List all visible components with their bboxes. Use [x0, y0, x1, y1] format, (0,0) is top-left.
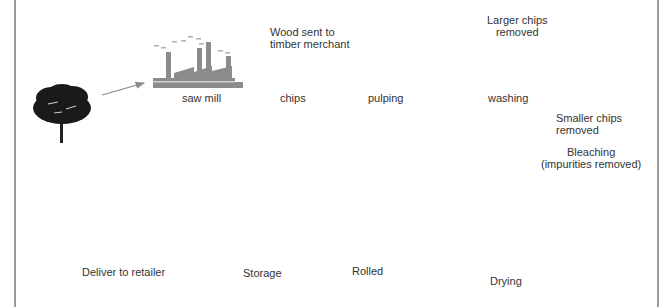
tree-icon: [33, 84, 91, 143]
annotation-smaller-chips: Smaller chips removed: [556, 112, 622, 136]
label-drying: Drying: [490, 275, 522, 287]
label-bleaching: Bleaching (impurities removed): [541, 146, 641, 170]
annotation-larger-chips-line1: Larger chips: [487, 14, 548, 26]
label-bleaching-title: Bleaching: [541, 146, 641, 158]
saw-mill-icon: [153, 36, 243, 88]
label-chips: chips: [280, 92, 306, 104]
annotation-larger-chips-line2: removed: [487, 26, 548, 38]
annotation-smaller-chips-line1: Smaller chips: [556, 112, 622, 124]
annotation-timber-line1: Wood sent to: [270, 26, 349, 38]
label-storage: Storage: [243, 267, 282, 279]
annotation-timber: Wood sent to timber merchant: [270, 26, 349, 50]
label-saw-mill: saw mill: [182, 92, 221, 104]
arrow-tree-to-sawmill: [102, 83, 144, 95]
label-bleaching-sub: (impurities removed): [541, 158, 641, 170]
label-rolled: Rolled: [352, 265, 383, 277]
annotation-larger-chips: Larger chips removed: [487, 14, 548, 38]
label-washing: washing: [488, 92, 528, 104]
label-deliver: Deliver to retailer: [82, 266, 165, 278]
annotation-timber-line2: timber merchant: [270, 38, 349, 50]
annotation-smaller-chips-line2: removed: [556, 124, 622, 136]
label-pulping: pulping: [368, 92, 403, 104]
